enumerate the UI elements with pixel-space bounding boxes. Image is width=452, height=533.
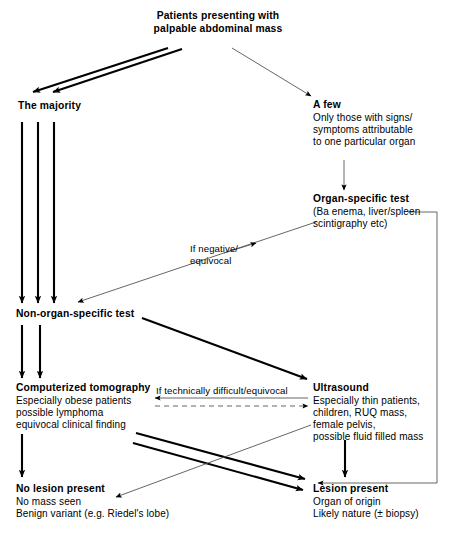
node-organ-specific-test-sub2: scintigraphy etc) [313, 218, 420, 230]
node-ultrasound: Ultrasound Especially thin patients, chi… [313, 382, 423, 443]
node-computerized-tomography: Computerized tomography Especially obese… [16, 382, 150, 431]
edge-ct-ultrasound-bidirectional [155, 398, 308, 406]
node-computerized-tomography-sub3: equivocal clinical finding [16, 419, 150, 431]
node-computerized-tomography-sub2: possible lymphoma [16, 407, 150, 419]
node-a-few-sub3: to one particular organ [313, 136, 415, 148]
edge-label-if-negative-equivocal-line2: equivocal [190, 255, 238, 267]
node-no-lesion-present-sub1: No mass seen [16, 496, 169, 508]
node-a-few-title: A few [313, 99, 415, 112]
edge-ct-to-lesion-present [133, 433, 305, 490]
node-a-few-sub1: Only those with signs/ [313, 112, 415, 124]
node-ultrasound-sub1: Especially thin patients, [313, 395, 423, 407]
node-no-lesion-present-sub2: Benign variant (e.g. Riedel's lobe) [16, 508, 169, 520]
node-root-line1: Patients presenting with [128, 10, 308, 23]
node-the-majority: The majority [18, 100, 81, 113]
edge-label-if-negative-equivocal-line1: If negative/ [190, 243, 238, 255]
node-organ-specific-test-sub1: (Ba enema, liver/spleen [313, 206, 420, 218]
flowchart-canvas: Patients presenting with palpable abdomi… [0, 0, 452, 533]
node-ultrasound-title: Ultrasound [313, 382, 423, 395]
edge-root-to-a-few [232, 48, 311, 96]
edge-root-to-majority [33, 48, 182, 92]
node-organ-specific-test-title: Organ-specific test [313, 193, 420, 206]
node-root: Patients presenting with palpable abdomi… [128, 10, 308, 35]
node-computerized-tomography-title: Computerized tomography [16, 382, 150, 395]
node-no-lesion-present-title: No lesion present [16, 483, 169, 496]
edge-non-organ-specific-to-ct [22, 325, 40, 378]
node-ultrasound-sub3: female pelvis, [313, 419, 423, 431]
node-a-few: A few Only those with signs/ symptoms at… [313, 99, 415, 148]
node-non-organ-specific-test-title: Non-organ-specific test [16, 308, 134, 321]
node-lesion-present-sub2: Likely nature (± biopsy) [313, 508, 419, 520]
node-the-majority-title: The majority [18, 100, 81, 113]
edge-label-if-negative-equivocal: If negative/ equivocal [190, 243, 238, 267]
edge-majority-to-non-organ-specific [22, 122, 54, 303]
edge-non-organ-specific-to-ultrasound [142, 318, 307, 379]
node-non-organ-specific-test: Non-organ-specific test [16, 308, 134, 321]
node-ultrasound-sub4: possible fluid filled mass [313, 431, 423, 443]
node-ultrasound-sub2: children, RUQ mass, [313, 407, 423, 419]
node-root-line2: palpable abdominal mass [128, 23, 308, 36]
node-lesion-present-title: Lesion present [313, 483, 419, 496]
node-lesion-present-sub1: Organ of origin [313, 496, 419, 508]
edge-label-if-technically-difficult: If technically difficult/equivocal [156, 385, 288, 397]
node-lesion-present: Lesion present Organ of origin Likely na… [313, 483, 419, 520]
node-no-lesion-present: No lesion present No mass seen Benign va… [16, 483, 169, 520]
node-organ-specific-test: Organ-specific test (Ba enema, liver/spl… [313, 193, 420, 230]
node-computerized-tomography-sub1: Especially obese patients [16, 395, 150, 407]
node-a-few-sub2: symptoms attributable [313, 124, 415, 136]
